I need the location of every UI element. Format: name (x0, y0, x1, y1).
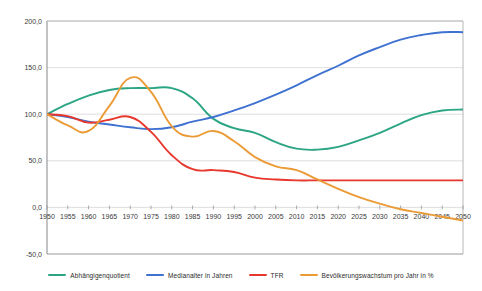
x-axis-tick-label: 1995 (226, 213, 242, 220)
x-axis-tick-label: 1975 (143, 213, 159, 220)
legend-item-label: Medianalter in Jahren (168, 272, 233, 279)
y-axis-tick-labels: 200,0150,0100,050,00,0-50,0 (24, 18, 42, 258)
legend-item[interactable]: TFR (249, 272, 284, 279)
y-axis-tick-label: 150,0 (24, 64, 42, 71)
legend-item[interactable]: Medianalter in Jahren (146, 272, 233, 279)
legend-color-swatch (48, 274, 66, 276)
x-axis-tick-label: 1970 (122, 213, 138, 220)
x-axis-tick-label: 1960 (81, 213, 97, 220)
x-axis-tick-label: 1980 (164, 213, 180, 220)
legend-color-swatch (300, 274, 318, 276)
y-axis-tick-label: 50,0 (28, 157, 42, 164)
x-axis-tick-label: 1985 (185, 213, 201, 220)
legend-item-label: Abhängigenquotient (70, 272, 130, 279)
legend-item-label: Bevölkerungswachstum pro Jahr in % (322, 272, 434, 279)
chart-legend: AbhängigenquotientMedianalter in JahrenT… (0, 266, 482, 284)
x-axis-tick-label: 2000 (247, 213, 263, 220)
x-axis-tick-label: 2030 (372, 213, 388, 220)
legend-color-swatch (249, 274, 267, 276)
x-axis-tick-label: 2025 (351, 213, 367, 220)
x-axis-tick-label: 2015 (310, 213, 326, 220)
legend-item[interactable]: Bevölkerungswachstum pro Jahr in % (300, 272, 434, 279)
y-axis-tick-label: 100,0 (24, 111, 42, 118)
line-chart: 200,0150,0100,050,00,0-50,0 195019551960… (0, 0, 482, 291)
x-axis-tick-label: 2035 (393, 213, 409, 220)
x-axis-tick-label: 1990 (206, 213, 222, 220)
x-axis-tick-label: 1965 (102, 213, 118, 220)
legend-color-swatch (146, 274, 164, 276)
legend-item[interactable]: Abhängigenquotient (48, 272, 130, 279)
x-axis-tick-label: 2010 (289, 213, 305, 220)
y-axis-tick-label: -50,0 (26, 251, 42, 258)
y-axis-tick-label: 0,0 (32, 204, 42, 211)
x-axis-tick-label: 2005 (268, 213, 284, 220)
y-axis-tick-label: 200,0 (24, 18, 42, 25)
x-axis-tick-label: 1950 (39, 213, 55, 220)
legend-item-label: TFR (271, 272, 284, 279)
x-axis-tick-label: 1955 (60, 213, 76, 220)
x-axis-tick-labels: 1950195519601965197019751980198519901995… (39, 213, 471, 220)
x-axis-tick-label: 2020 (330, 213, 346, 220)
chart-container: 200,0150,0100,050,00,0-50,0 195019551960… (0, 0, 482, 291)
